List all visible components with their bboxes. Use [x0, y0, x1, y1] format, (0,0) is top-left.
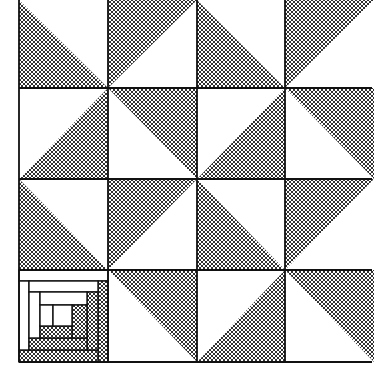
log-cabin-log — [87, 292, 98, 350]
log-cabin-log — [40, 305, 53, 326]
log-cabin-log — [40, 326, 72, 338]
hatched-triangle — [19, 0, 108, 88]
hatched-triangle — [197, 88, 285, 179]
hatched-triangle — [285, 88, 374, 179]
log-cabin-log — [19, 270, 108, 281]
hatched-triangle — [19, 88, 108, 179]
log-cabin-log — [98, 281, 108, 362]
log-cabin-log — [72, 305, 87, 338]
hatched-triangle — [108, 88, 197, 179]
hatched-triangle — [197, 179, 285, 270]
log-cabin-log — [19, 350, 98, 362]
hatched-triangle — [19, 179, 108, 270]
hatched-triangle — [285, 270, 374, 362]
log-cabin-log — [29, 338, 87, 350]
hatched-triangle — [285, 179, 374, 270]
log-cabin-log — [53, 305, 72, 326]
log-cabin-block — [19, 270, 108, 362]
hatched-triangle — [108, 0, 197, 88]
log-cabin-log — [29, 281, 98, 292]
quilt-figure — [0, 0, 374, 375]
hatched-triangle — [108, 179, 197, 270]
log-cabin-log — [40, 292, 87, 305]
log-cabin-log — [29, 292, 40, 338]
hatched-triangle — [108, 270, 197, 362]
hatched-triangle — [197, 0, 285, 88]
hatched-triangle — [197, 270, 285, 362]
hatched-triangle — [285, 0, 374, 88]
log-cabin-log — [19, 281, 29, 350]
